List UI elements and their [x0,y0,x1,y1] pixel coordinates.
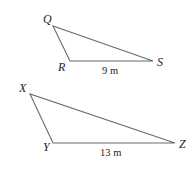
triangle-qrs: Q R S 9 m [43,12,163,76]
vertex-label-z: Z [179,137,186,151]
side-label-yz: 13 m [100,147,121,158]
triangle-xyz: X Y Z 13 m [18,81,186,158]
vertex-label-r: R [57,60,66,74]
vertex-label-q: Q [43,12,52,26]
side-label-rs: 9 m [102,65,118,76]
triangle-xyz-shape [30,94,175,143]
vertex-label-s: S [157,55,163,69]
triangle-qrs-shape [53,26,153,61]
diagram-canvas: Q R S 9 m X Y Z 13 m [0,0,196,173]
triangle-diagram: Q R S 9 m X Y Z 13 m [0,0,196,173]
vertex-label-x: X [18,81,27,95]
vertex-label-y: Y [43,140,51,154]
